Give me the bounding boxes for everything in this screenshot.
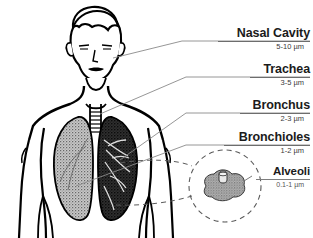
label-title-bronchus: Bronchus bbox=[240, 99, 310, 112]
human-figure-outline bbox=[19, 7, 173, 238]
label-group-alveoli: Alveoli 0.1-1 µm bbox=[256, 166, 310, 188]
label-title-trachea: Trachea bbox=[250, 63, 310, 76]
label-rule-alveoli bbox=[256, 179, 310, 180]
label-size-alveoli: 0.1-1 µm bbox=[256, 181, 304, 188]
label-size-bronchus: 2-3 µm bbox=[240, 115, 304, 123]
label-title-bronchioles: Bronchioles bbox=[224, 131, 310, 144]
label-group-trachea: Trachea 3-5 µm bbox=[250, 63, 310, 86]
label-group-bronchus: Bronchus 2-3 µm bbox=[240, 99, 310, 122]
label-title-nasal-cavity: Nasal Cavity bbox=[218, 27, 310, 40]
head-and-hair bbox=[66, 7, 125, 90]
label-size-nasal-cavity: 5-10 µm bbox=[218, 43, 304, 51]
label-title-alveoli: Alveoli bbox=[256, 166, 310, 178]
label-size-trachea: 3-5 µm bbox=[250, 79, 304, 87]
label-size-bronchioles: 1-2 µm bbox=[224, 147, 304, 155]
left-lung bbox=[54, 117, 93, 220]
torso-and-arms bbox=[19, 128, 173, 238]
label-group-nasal-cavity: Nasal Cavity 5-10 µm bbox=[218, 27, 310, 50]
label-group-bronchioles: Bronchioles 1-2 µm bbox=[224, 131, 310, 154]
